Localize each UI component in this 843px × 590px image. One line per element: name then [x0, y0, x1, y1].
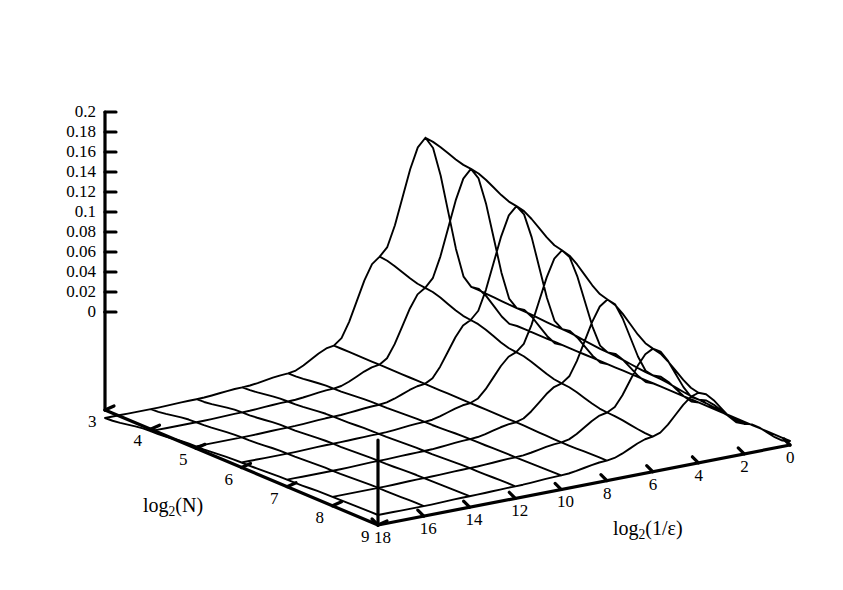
y-axis-title: log2(1/ε)	[613, 518, 683, 541]
y-tick	[692, 457, 698, 463]
y-tick	[464, 501, 470, 507]
x-tick-label: 6	[225, 471, 234, 488]
y-tick-label: 4	[694, 467, 703, 484]
x-tick-label: 8	[316, 509, 325, 526]
surface-wireframe-mesh	[105, 138, 790, 515]
y-tick-label: 10	[557, 493, 574, 510]
x-tick-label: 9	[361, 528, 370, 545]
x-tick	[333, 502, 342, 506]
y-tick-label: 6	[649, 476, 658, 493]
y-tick-label: 16	[420, 520, 437, 537]
y-tick-label: 18	[374, 529, 391, 546]
x-tick-label: 5	[179, 451, 188, 468]
y-tick	[555, 483, 561, 489]
z-tick-label: 0.14	[30, 163, 96, 180]
y-tick	[738, 448, 744, 454]
y-tick-label: 8	[603, 485, 612, 502]
z-tick-label: 0.04	[30, 263, 96, 280]
x-tick-label: 4	[134, 432, 143, 449]
z-tick-label: 0.12	[30, 183, 96, 200]
x-tick	[287, 483, 296, 487]
surface-plot-3d	[0, 0, 843, 590]
z-tick-label: 0.18	[30, 123, 96, 140]
y-tick	[601, 475, 607, 481]
z-tick-label: 0.16	[30, 143, 96, 160]
z-tick-label: 0.02	[30, 283, 96, 300]
x-tick	[151, 425, 160, 429]
z-tick-label: 0.2	[30, 103, 96, 120]
y-tick-label: 12	[511, 502, 528, 519]
axes-lines	[105, 112, 790, 525]
y-tick	[647, 466, 653, 472]
y-tick	[509, 492, 515, 498]
y-tick-label: 14	[466, 511, 483, 528]
z-tick-label: 0.1	[30, 203, 96, 220]
x-tick	[242, 464, 251, 468]
y-tick-label: 2	[740, 458, 749, 475]
y-tick-label: 0	[786, 449, 795, 466]
z-tick-label: 0	[30, 303, 96, 320]
y-tick	[418, 510, 424, 516]
x-tick	[196, 444, 205, 448]
x-tick-label: 7	[270, 490, 279, 507]
z-tick-label: 0.08	[30, 223, 96, 240]
z-tick-label: 0.06	[30, 243, 96, 260]
x-axis-title: log2(N)	[143, 495, 203, 518]
mesh-lines	[105, 138, 790, 515]
x-tick-label: 3	[88, 413, 97, 430]
axis-ticks	[105, 112, 790, 525]
